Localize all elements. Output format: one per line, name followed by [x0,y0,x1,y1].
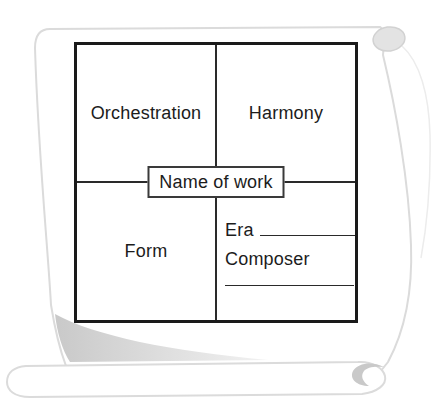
harmony-label: Harmony [249,103,323,124]
form-label: Form [125,241,168,262]
era-blank-line [260,218,355,236]
era-row: Era [225,216,355,245]
era-label: Era [225,220,254,240]
name-of-work-box: Name of work [148,166,285,198]
composer-blank-line [225,285,354,286]
orchestration-label: Orchestration [91,103,202,124]
composer-label: Composer [225,249,310,269]
worksheet-figure: Orchestration Harmony Form Era Composer … [0,0,431,405]
quadrant-bottom-right: Era Composer [217,183,355,320]
quadrant-top-left: Orchestration [77,45,215,181]
composer-row: Composer [225,245,355,274]
quadrant-bottom-left: Form [77,183,215,320]
name-of-work-label: Name of work [159,172,272,193]
quadrant-top-right: Harmony [217,45,355,181]
scroll-bottom-roll [7,362,385,397]
quadrant-frame: Orchestration Harmony Form Era Composer … [74,42,358,323]
